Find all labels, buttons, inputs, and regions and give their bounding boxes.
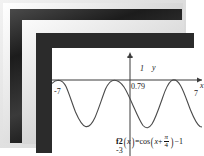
picture-frame-bevel: 1 y x -7 7 0.79 -3 f2 ( x ) = <box>3 3 183 143</box>
equation-fraction: π 4 <box>164 134 170 148</box>
y-axis-name-label: y <box>152 64 156 72</box>
equation-function-name: f2 <box>116 137 123 146</box>
equation-minus-one: −1 <box>174 137 183 146</box>
cosine-curve <box>52 80 186 128</box>
picture-frame-inner-edge: 1 y x -7 7 0.79 -3 f2 ( x ) = <box>36 33 186 148</box>
picture-frame-dark-band: 1 y x -7 7 0.79 -3 f2 ( x ) = <box>10 9 182 143</box>
equation-cos-operator: cos <box>139 137 150 146</box>
equation-plus-operator: + <box>158 137 163 146</box>
picture-frame-outer: 1 y x -7 7 0.79 -3 f2 ( x ) = <box>0 0 186 148</box>
picture-frame-inner-bevel: 1 y x -7 7 0.79 -3 f2 ( x ) = <box>22 20 184 144</box>
x-axis-left-end-label: -7 <box>54 88 61 96</box>
plot-canvas[interactable]: 1 y x -7 7 0.79 -3 f2 ( x ) = <box>52 48 186 148</box>
origin-offset-label: 0.79 <box>131 83 145 91</box>
y-axis-tick-label-one: 1 <box>140 65 144 73</box>
equation-variable: x <box>127 137 131 146</box>
equation-annotation: f2 ( x ) = cos ( x + π 4 <box>116 134 183 148</box>
equation-fraction-numerator: π <box>164 134 170 141</box>
equation-fraction-denominator: 4 <box>164 142 170 148</box>
